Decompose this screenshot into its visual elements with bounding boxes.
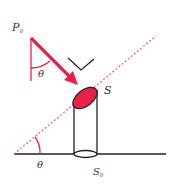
label-theta-bottom: θ xyxy=(37,159,43,170)
base-ellipse-s0 xyxy=(74,151,97,158)
label-p0-subscript: 0 xyxy=(20,28,24,34)
label-s: S xyxy=(104,84,112,97)
label-theta-top: θ xyxy=(38,68,44,79)
angle-arc-top xyxy=(31,61,50,68)
normal-chevron xyxy=(68,58,94,70)
label-p0: P xyxy=(11,21,20,34)
diagram-canvas: P 0 θ S θ S 0 xyxy=(0,0,178,186)
angle-arc-bottom xyxy=(35,137,40,154)
label-s0: S xyxy=(93,166,100,177)
label-s0-subscript: 0 xyxy=(100,172,104,178)
